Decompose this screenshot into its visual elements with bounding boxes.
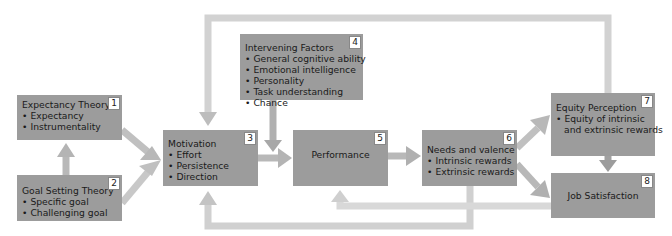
box-number-badge: 8 (641, 175, 653, 188)
arrowhead-into-3-bottom (199, 191, 217, 205)
box-item: Specific goal (22, 196, 117, 207)
box-number-badge: 5 (374, 132, 386, 145)
box-number-badge: 6 (503, 132, 515, 145)
box-item: Challenging goal (22, 207, 117, 218)
arrowhead-into-5-bottom (331, 190, 349, 202)
box-item: Direction (168, 171, 253, 182)
box-item: General cognitive ability (245, 53, 358, 64)
arrowhead-into-3-top (199, 112, 217, 126)
box-equity-perception: 7 Equity Perception Equity of intrinsic … (551, 93, 655, 156)
box-item: Extrinsic rewards (427, 166, 512, 177)
box-title: Job Satisfaction (567, 190, 638, 201)
box-expectancy-theory: 1 Expectancy Theory Expectancy Instrumen… (17, 95, 122, 140)
box-motivation: 3 Motivation Effort Persistence Directio… (163, 130, 258, 186)
box-item: Emotional intelligence (245, 64, 358, 75)
box-item: Effort (168, 149, 253, 160)
box-number-badge: 7 (641, 95, 653, 108)
box-item: Personality (245, 75, 358, 86)
box-needs-and-valence: 6 Needs and valence Intrinsic rewards Ex… (422, 130, 517, 186)
box-item: Expectancy (22, 110, 117, 121)
arrow-6-to-8 (517, 164, 538, 187)
box-goal-setting-theory: 2 Goal Setting Theory Specific goal Chal… (17, 175, 122, 221)
box-intervening-factors: 4 Intervening Factors General cognitive … (240, 34, 363, 100)
box-number-badge: 4 (349, 36, 361, 49)
box-item: Intrinsic rewards (427, 155, 512, 166)
box-title: Goal Setting Theory (22, 185, 117, 196)
box-item: Task understanding (245, 86, 358, 97)
box-performance: 5 Performance (293, 130, 388, 186)
box-item: Equity of intrinsic (556, 113, 650, 124)
box-item-continued: and extrinsic rewards (556, 124, 650, 135)
feedback-loop-8-to-5 (340, 200, 551, 206)
box-title: Performance (311, 149, 369, 160)
box-item: Persistence (168, 160, 253, 171)
box-title: Needs and valence (427, 144, 512, 155)
box-title: Expectancy Theory (22, 99, 117, 110)
box-title: Intervening Factors (245, 42, 358, 53)
box-number-badge: 2 (108, 177, 120, 190)
box-item: Instrumentality (22, 121, 117, 132)
box-number-badge: 1 (108, 97, 120, 110)
arrow-6-to-7 (517, 128, 538, 148)
box-title: Equity Perception (556, 102, 650, 113)
box-item: Chance (245, 97, 358, 108)
arrow-2-to-3 (122, 172, 148, 203)
box-title: Motivation (168, 138, 253, 149)
arrow-1-to-3 (122, 130, 148, 152)
box-job-satisfaction: 8 Job Satisfaction (551, 173, 655, 218)
box-number-badge: 3 (244, 132, 256, 145)
